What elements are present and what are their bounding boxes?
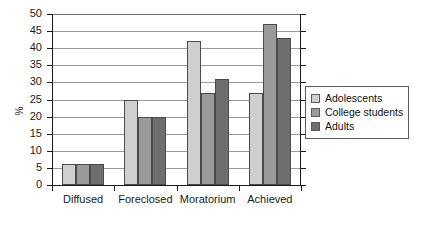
bar [201,93,215,185]
bar [263,24,277,185]
y-axis-tick-right [301,168,306,169]
x-axis-category-label: Moratorium [177,193,239,206]
x-axis-tick [52,186,53,191]
y-axis-tick-label: 15 [12,128,42,139]
bar [249,93,263,185]
y-axis-tick-label: 30 [12,76,42,87]
y-axis-tick-right [301,65,306,66]
y-axis-tick-label: 25 [12,94,42,105]
legend-swatch-adolescents [311,94,320,103]
x-axis-category-label: Foreclosed [114,193,176,206]
y-axis-tick-label: 5 [12,162,42,173]
bar [124,100,138,186]
bars-container [52,14,301,185]
x-axis-tick [114,186,115,191]
legend-swatch-adults [311,122,320,131]
legend-swatch-college-students [311,108,320,117]
bar [138,117,152,185]
x-axis-category-label: Achieved [239,193,301,206]
legend-label-adults: Adults [325,121,354,132]
legend-item: College students [311,106,404,119]
y-axis-tick-label: 10 [12,145,42,156]
legend-item: Adolescents [311,92,404,105]
bar [215,79,229,185]
legend-item: Adults [311,120,404,133]
legend-label-college-students: College students [325,107,403,118]
y-axis-tick-right [301,48,306,49]
x-axis-category-label: Diffused [52,193,114,206]
bar [90,164,104,185]
y-axis-tick-right [301,151,306,152]
bar [152,117,166,185]
y-axis-tick-right [301,82,306,83]
y-axis-tick-label: 0 [12,179,42,190]
x-axis-tick [301,186,302,191]
y-axis-tick-label: 40 [12,42,42,53]
y-axis-tick-label: 35 [12,59,42,70]
bar [187,41,201,185]
bar [76,164,90,185]
x-axis-tick [177,186,178,191]
legend: Adolescents College students Adults [305,86,409,139]
y-axis-tick-label: 20 [12,111,42,122]
y-axis-tick-right [301,31,306,32]
bar-chart-figure: % 05101520253035404550 DiffusedForeclose… [0,0,421,226]
x-axis-tick [239,186,240,191]
y-axis-tick-label: 50 [12,8,42,19]
y-axis-tick-right [301,14,306,15]
bar [62,164,76,185]
y-axis-tick-label: 45 [12,25,42,36]
legend-label-adolescents: Adolescents [325,93,382,104]
bar [277,38,291,185]
